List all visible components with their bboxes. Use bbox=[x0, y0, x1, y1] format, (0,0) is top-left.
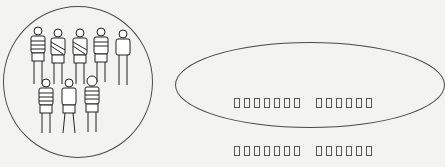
person-icon bbox=[62, 79, 76, 133]
person-icon bbox=[51, 29, 65, 84]
label-word bbox=[233, 95, 301, 111]
person-icon bbox=[39, 79, 53, 133]
label-word bbox=[315, 95, 373, 111]
label-line-1 bbox=[233, 95, 373, 111]
person-icon bbox=[94, 28, 108, 82]
person-icon bbox=[116, 30, 130, 85]
label-word bbox=[233, 143, 301, 159]
person-icon bbox=[73, 29, 87, 84]
label-word bbox=[315, 143, 373, 159]
person-icon bbox=[31, 27, 45, 84]
ellipse-label bbox=[233, 63, 373, 167]
person-icon bbox=[85, 76, 99, 132]
label-line-2 bbox=[233, 143, 373, 159]
